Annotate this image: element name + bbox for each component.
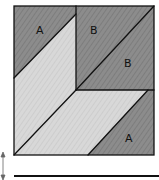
label-a-top: A <box>36 25 44 36</box>
label-b-top: B <box>90 25 98 36</box>
quilt-block-diagram <box>0 0 159 180</box>
label-b-right: B <box>124 58 132 69</box>
dimension-arrow-icon <box>1 152 5 180</box>
label-a-bottom: A <box>125 133 133 144</box>
